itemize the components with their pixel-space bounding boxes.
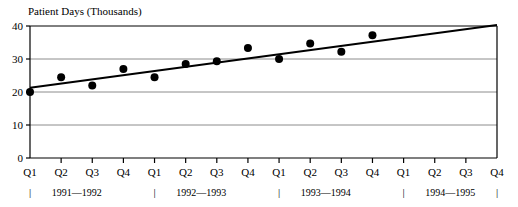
data-point bbox=[275, 55, 283, 63]
x-tick-label: Q2 bbox=[303, 166, 316, 178]
x-group-separator: | bbox=[402, 186, 404, 198]
x-tick-label: Q4 bbox=[490, 166, 504, 178]
data-point bbox=[119, 65, 127, 73]
data-point bbox=[182, 60, 190, 68]
x-tick-label: Q1 bbox=[397, 166, 410, 178]
x-group-separator: | bbox=[278, 186, 280, 198]
chart-container: Patient Days (Thousands) 010203040 Q1Q2Q… bbox=[0, 0, 518, 207]
x-tick-label: Q1 bbox=[23, 166, 36, 178]
data-point bbox=[306, 39, 314, 47]
x-group-separator: | bbox=[29, 186, 31, 198]
x-tick-label: Q4 bbox=[117, 166, 131, 178]
x-group-separator: | bbox=[496, 186, 498, 198]
x-tick-label: Q4 bbox=[366, 166, 380, 178]
x-tick-label: Q2 bbox=[179, 166, 192, 178]
data-point bbox=[88, 81, 96, 89]
trend-line bbox=[30, 25, 497, 88]
x-tick-label: Q2 bbox=[428, 166, 441, 178]
data-points bbox=[26, 31, 376, 96]
x-group-label: 1992—1993 bbox=[176, 187, 226, 198]
x-group-label: 1994—1995 bbox=[425, 187, 475, 198]
x-tick-label: Q3 bbox=[459, 166, 473, 178]
x-group-separator: | bbox=[153, 186, 155, 198]
x-tick-label: Q3 bbox=[86, 166, 100, 178]
x-axis-group-labels: 1991—1992|1992—1993|1993—1994|1994—1995|… bbox=[29, 186, 498, 198]
y-tick-label: 0 bbox=[18, 152, 24, 164]
x-tick-label: Q4 bbox=[241, 166, 255, 178]
x-tick-label: Q3 bbox=[335, 166, 349, 178]
gridlines bbox=[30, 59, 497, 125]
y-tick-label: 40 bbox=[12, 20, 24, 32]
x-group-label: 1993—1994 bbox=[301, 187, 351, 198]
data-point bbox=[244, 44, 252, 52]
x-group-label: 1991—1992 bbox=[52, 187, 102, 198]
x-tick-label: Q1 bbox=[148, 166, 161, 178]
x-tick-label: Q3 bbox=[210, 166, 224, 178]
x-tick-label: Q2 bbox=[54, 166, 67, 178]
patient-days-scatter-chart: 010203040 Q1Q2Q3Q4Q1Q2Q3Q4Q1Q2Q3Q4Q1Q2Q3… bbox=[0, 0, 518, 207]
data-point bbox=[26, 88, 34, 96]
data-point bbox=[151, 73, 159, 81]
x-axis-ticks: Q1Q2Q3Q4Q1Q2Q3Q4Q1Q2Q3Q4Q1Q2Q3Q4 bbox=[23, 158, 504, 178]
trend-line-segment bbox=[30, 25, 497, 88]
data-point bbox=[368, 31, 376, 39]
data-point bbox=[213, 57, 221, 65]
x-tick-label: Q1 bbox=[272, 166, 285, 178]
data-point bbox=[337, 48, 345, 56]
y-tick-label: 20 bbox=[12, 86, 24, 98]
data-point bbox=[57, 73, 65, 81]
y-tick-label: 10 bbox=[12, 119, 24, 131]
y-tick-label: 30 bbox=[12, 53, 24, 65]
